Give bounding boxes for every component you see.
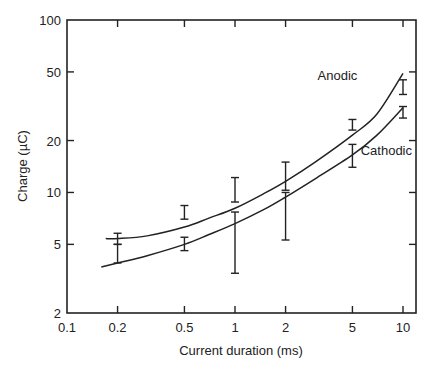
y-tick-label: 50 bbox=[47, 65, 61, 80]
cathodic-error-bar bbox=[348, 144, 356, 167]
plot-frame bbox=[67, 20, 416, 313]
x-tick-label: 2 bbox=[282, 320, 289, 335]
cathodic-error-bar bbox=[231, 212, 239, 273]
cathodic-error-bar bbox=[114, 244, 122, 263]
anodic-error-bar bbox=[282, 162, 290, 190]
y-tick-label: 2 bbox=[54, 306, 61, 321]
plot-border bbox=[67, 20, 416, 313]
error-bars bbox=[114, 80, 407, 273]
cathodic-error-bar bbox=[399, 107, 407, 119]
anodic-error-bar bbox=[231, 178, 239, 202]
x-tick-label: 0.1 bbox=[58, 320, 76, 335]
anodic-error-bar bbox=[399, 80, 407, 95]
y-tick-label: 20 bbox=[47, 134, 61, 149]
series-curves bbox=[101, 73, 403, 266]
x-tick-label: 0.5 bbox=[175, 320, 193, 335]
anodic-error-bar bbox=[180, 206, 188, 220]
x-tick-label: 1 bbox=[231, 320, 238, 335]
cathodic-label: Cathodic bbox=[361, 143, 413, 158]
y-tick-label: 100 bbox=[39, 13, 61, 28]
x-tick-label: 5 bbox=[349, 320, 356, 335]
y-axis-ticks: 25102050100 bbox=[39, 13, 416, 321]
y-tick-label: 5 bbox=[54, 237, 61, 252]
chart: 0.10.20.512510 25102050100 AnodicCathodi… bbox=[0, 0, 435, 368]
x-tick-label: 0.2 bbox=[109, 320, 127, 335]
anodic-error-bar bbox=[348, 119, 356, 130]
anodic-label: Anodic bbox=[318, 68, 358, 83]
x-tick-label: 10 bbox=[396, 320, 410, 335]
x-axis-label: Current duration (ms) bbox=[179, 343, 303, 358]
y-axis-label: Charge (µC) bbox=[15, 130, 30, 202]
y-tick-label: 10 bbox=[47, 185, 61, 200]
